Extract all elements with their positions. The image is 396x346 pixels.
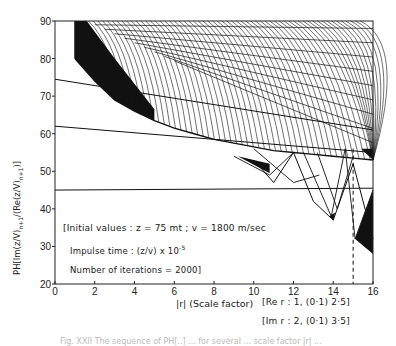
x-tick-label: 6 <box>171 286 177 297</box>
x-tick-label: 12 <box>288 286 300 297</box>
annotation-im-r: [Im r : 2, (0·1) 3·5] <box>262 316 350 326</box>
x-tick-label: 4 <box>132 286 138 297</box>
x-tick-label: 16 <box>367 286 379 297</box>
chart-canvas: 02468101214162030405060708090 <box>0 0 396 346</box>
annotation-re-r: [Re r : 1, (0·1) 2·5] <box>262 297 350 307</box>
y-tick-label: 40 <box>40 204 52 215</box>
x-tick-label: 2 <box>92 286 98 297</box>
y-tick-label: 80 <box>40 54 52 65</box>
annotation-initial-values: [Initial values : z = 75 mt ; v = 1800 m… <box>63 223 266 233</box>
y-axis-label: PH[Im(z/V)n+1/(Re(z/V)n+1)] <box>12 125 26 275</box>
x-tick-label: 8 <box>211 286 217 297</box>
y-tick-label: 60 <box>40 129 52 140</box>
annotation-impulse-time: Impulse time : (z/v) x 10-5 <box>70 244 185 256</box>
figure-caption: Fig. XXII The sequence of PH[..] ... for… <box>60 337 322 346</box>
annotation-iterations: Number of iterations = 2000] <box>70 265 201 275</box>
x-axis-label: |r| (Scale factor) <box>176 298 253 309</box>
y-tick-label: 70 <box>40 91 52 102</box>
x-tick-label: 10 <box>248 286 260 297</box>
x-tick-label: 14 <box>328 286 340 297</box>
y-tick-label: 20 <box>40 279 52 290</box>
y-tick-label: 30 <box>40 241 52 252</box>
y-tick-label: 90 <box>40 16 52 27</box>
x-tick-label: 0 <box>52 286 58 297</box>
y-tick-label: 50 <box>40 166 52 177</box>
